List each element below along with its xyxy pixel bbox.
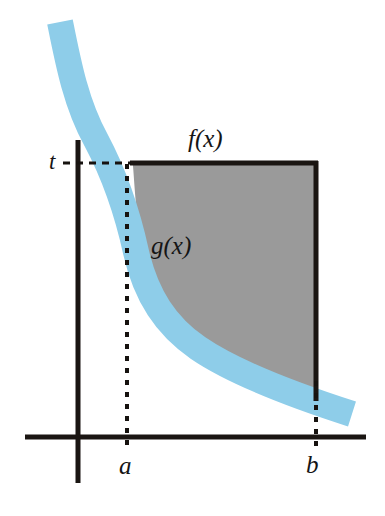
curve-label-g-of-x: g(x) xyxy=(151,233,191,258)
axis-label-b: b xyxy=(306,452,319,477)
axis-label-a: a xyxy=(119,453,132,478)
axis-label-t: t xyxy=(49,150,55,173)
math-figure: t a b f(x) g(x) xyxy=(0,0,385,516)
figure-canvas xyxy=(0,0,385,516)
curve-label-f-of-x: f(x) xyxy=(188,126,223,151)
